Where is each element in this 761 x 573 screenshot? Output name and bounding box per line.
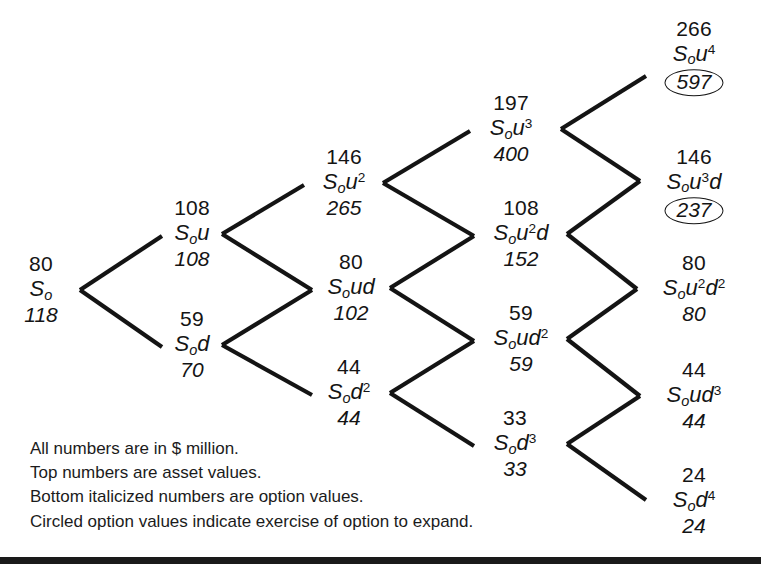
node-symbol: So (24, 276, 57, 304)
edge-n1d-n2dd (222, 345, 312, 395)
edge-n3uud-n4b (567, 181, 640, 234)
asset-value: 80 (327, 251, 374, 274)
node-symbol: Sou2d (494, 220, 549, 248)
lattice-node-n1u: 108 Sou 108 (174, 197, 210, 270)
node-symbol: Soud2 (494, 325, 549, 353)
option-value: 152 (494, 248, 549, 271)
asset-value: 59 (494, 302, 549, 325)
asset-value: 44 (667, 359, 722, 382)
lattice-node-n4d: 44 Soud3 44 (667, 359, 722, 432)
edge-n0-n1d (80, 290, 162, 347)
bottom-divider (0, 557, 761, 564)
binomial-lattice-figure: 80 So 118 108 Sou 108 59 Sod 70 146 Sou2… (0, 0, 761, 573)
option-value: 33 (494, 458, 537, 481)
lattice-node-n3udd: 59 Soud2 59 (494, 302, 549, 375)
option-value: 44 (328, 407, 371, 430)
edge-n2uu-n3uud (383, 183, 474, 236)
asset-value: 108 (494, 197, 549, 220)
edge-n1u-n2ud (222, 234, 312, 290)
node-symbol: Sou3d (664, 169, 723, 197)
option-value-circled: 237 (664, 197, 723, 224)
node-symbol: Sod4 (673, 487, 716, 515)
edge-n3udd-n4d (567, 339, 640, 396)
lattice-node-n4a: 266 Sou4 597 (664, 18, 723, 96)
edge-n2dd-n3udd (390, 341, 474, 393)
option-value: 80 (663, 303, 725, 326)
node-symbol: Soud (327, 274, 374, 302)
legend-line-1: All numbers are in $ million. (30, 437, 473, 461)
asset-value: 80 (24, 253, 57, 276)
edge-n3uuu-n4b (561, 129, 640, 181)
lattice-node-n0: 80 So 118 (24, 253, 57, 326)
edge-n3uud-n4c (567, 234, 637, 289)
option-value: 24 (673, 515, 716, 538)
edge-n3ddd-n4e (567, 444, 646, 500)
legend-line-2: Top numbers are asset values. (30, 461, 473, 485)
node-symbol: Sod (174, 331, 209, 359)
option-value: 59 (494, 353, 549, 376)
option-value: 400 (490, 143, 533, 166)
node-symbol: Sou4 (664, 41, 723, 69)
asset-value: 80 (663, 252, 725, 275)
edge-n1d-n2ud (222, 290, 312, 345)
lattice-node-n2uu: 146 Sou2 265 (323, 146, 366, 219)
node-symbol: Sou (174, 220, 210, 248)
asset-value: 59 (174, 308, 209, 331)
option-value: 118 (24, 304, 57, 327)
lattice-node-n4e: 24 Sod4 24 (673, 464, 716, 537)
asset-value: 266 (664, 18, 723, 41)
lattice-node-n2dd: 44 Sod2 44 (328, 356, 371, 429)
edge-n1u-n2uu (222, 185, 304, 234)
legend-block: All numbers are in $ million. Top number… (30, 437, 473, 534)
option-value-circled: 597 (664, 69, 723, 96)
edge-n3uuu-n4a (561, 76, 646, 129)
asset-value: 108 (174, 197, 210, 220)
asset-value: 24 (673, 464, 716, 487)
node-symbol: Sou2d2 (663, 275, 725, 303)
option-value: 265 (323, 197, 366, 220)
lattice-node-n3uuu: 197 Sou3 400 (490, 92, 533, 165)
asset-value: 44 (328, 356, 371, 379)
edge-n2ud-n3uud (390, 236, 474, 288)
lattice-node-n3uud: 108 Sou2d 152 (494, 197, 549, 270)
lattice-node-n4c: 80 Sou2d2 80 (663, 252, 725, 325)
legend-line-3: Bottom italicized numbers are option val… (30, 485, 473, 509)
edge-n3ddd-n4d (567, 396, 640, 444)
legend-line-4: Circled option values indicate exercise … (30, 510, 473, 534)
option-value: 44 (667, 410, 722, 433)
option-value: 108 (174, 248, 210, 271)
asset-value: 33 (494, 407, 537, 430)
node-symbol: Sou2 (323, 169, 366, 197)
node-symbol: Soud3 (667, 382, 722, 410)
node-symbol: Sou3 (490, 115, 533, 143)
lattice-node-n1d: 59 Sod 70 (174, 308, 209, 381)
edge-n2ud-n3udd (390, 288, 474, 341)
edge-n2uu-n3uuu (383, 131, 470, 183)
asset-value: 146 (323, 146, 366, 169)
node-symbol: Sod2 (328, 379, 371, 407)
lattice-node-n2ud: 80 Soud 102 (327, 251, 374, 324)
edge-n3udd-n4c (567, 289, 637, 339)
lattice-node-n3ddd: 33 Sod3 33 (494, 407, 537, 480)
option-value: 102 (327, 302, 374, 325)
asset-value: 197 (490, 92, 533, 115)
option-value: 70 (174, 359, 209, 382)
lattice-node-n4b: 146 Sou3d 237 (664, 146, 723, 224)
node-symbol: Sod3 (494, 430, 537, 458)
edge-n0-n1u (80, 236, 162, 290)
asset-value: 146 (664, 146, 723, 169)
